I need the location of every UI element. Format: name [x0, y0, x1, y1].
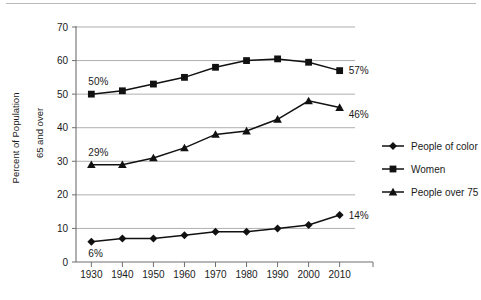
legend-label: People over 75 — [411, 187, 479, 198]
data-point — [119, 87, 126, 94]
data-point — [305, 59, 312, 66]
y-tick-label-0: 0 — [62, 257, 68, 268]
gridlines — [76, 27, 355, 228]
data-point — [212, 228, 220, 236]
data-point — [336, 67, 343, 74]
x-tick-label-1930: 1930 — [80, 269, 103, 280]
data-point — [273, 115, 282, 123]
chart-figure: Percent of Population 65 and over 010203… — [0, 0, 481, 300]
y-tick-label-50: 50 — [57, 89, 69, 100]
data-series — [87, 55, 344, 245]
y-tick-label-10: 10 — [57, 223, 69, 234]
data-point — [305, 221, 313, 229]
data-label: 6% — [88, 248, 103, 259]
data-point — [212, 64, 219, 71]
data-point — [149, 235, 157, 243]
y-tick-label-60: 60 — [57, 55, 69, 66]
data-label: 57% — [349, 65, 369, 76]
x-tick-label-1980: 1980 — [235, 269, 258, 280]
x-tick-label-1950: 1950 — [142, 269, 165, 280]
data-label: 46% — [349, 109, 369, 120]
legend-label: People of color — [411, 141, 478, 152]
data-point — [180, 231, 188, 239]
legend-marker-square — [390, 166, 397, 173]
data-point — [243, 57, 250, 64]
x-tick-label-2000: 2000 — [297, 269, 320, 280]
data-point — [88, 91, 95, 98]
x-tick-label-1940: 1940 — [111, 269, 134, 280]
chart-legend: People of colorWomenPeople over 75 — [382, 141, 479, 198]
x-tick-label-1990: 1990 — [266, 269, 289, 280]
y-tick-label-20: 20 — [57, 189, 69, 200]
data-point — [181, 74, 188, 81]
data-point — [118, 235, 126, 243]
y-tick-label-70: 70 — [57, 22, 69, 33]
data-point — [243, 228, 251, 236]
axes — [72, 26, 373, 267]
legend-marker-diamond — [389, 142, 397, 150]
x-tick-label-1960: 1960 — [173, 269, 196, 280]
data-point — [274, 224, 282, 232]
data-point — [274, 55, 281, 62]
data-point — [87, 238, 95, 246]
y-tick-label-30: 30 — [57, 156, 69, 167]
data-point — [180, 144, 189, 152]
data-point — [304, 97, 313, 105]
data-point — [150, 81, 157, 88]
data-label: 50% — [88, 76, 108, 87]
y-tick-labels: 010203040506070 — [57, 22, 69, 268]
x-tick-labels: 193019401950196019701980199020002010 — [80, 269, 351, 280]
x-tick-label-1970: 1970 — [204, 269, 227, 280]
data-label: 29% — [88, 147, 108, 158]
data-label: 14% — [349, 210, 369, 221]
x-tick-label-2010: 2010 — [329, 269, 352, 280]
y-tick-label-40: 40 — [57, 122, 69, 133]
chart-plot-area: 010203040506070 193019401950196019701980… — [0, 0, 481, 300]
legend-label: Women — [411, 164, 445, 175]
data-point — [336, 211, 344, 219]
